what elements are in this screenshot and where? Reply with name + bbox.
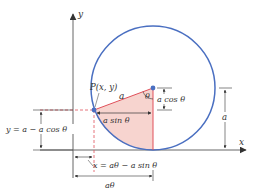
point-label: P(x, y): [89, 82, 117, 92]
a-sin-label: a sin θ: [103, 116, 130, 125]
point-p: [92, 108, 97, 113]
center-point: [151, 86, 156, 91]
y-axis-label: y: [77, 9, 84, 19]
a-theta-label: aθ: [105, 181, 115, 190]
x-axis-label: x: [239, 137, 244, 147]
radius-label: a: [119, 91, 124, 101]
a-cos-label: a cos θ: [157, 95, 185, 104]
point-leader: [95, 93, 99, 107]
y-equation-label: y = a − a cos θ: [5, 125, 67, 134]
theta-label: θ: [145, 92, 150, 101]
a-right-label: a: [222, 112, 227, 122]
cycloid-diagram: y x P(x, y) a θ a cos θ a sin θ a y = a …: [0, 0, 254, 196]
x-equation-label: x = aθ − a sin θ: [93, 161, 157, 170]
